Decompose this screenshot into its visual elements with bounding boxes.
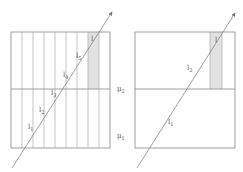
label-mu2: μ2 xyxy=(117,85,125,94)
left-columns xyxy=(22,32,99,148)
right-ray xyxy=(137,13,235,168)
left-label-l5: l5 xyxy=(76,52,81,61)
left-panel: l l5 l4 l3 l2 l1 xyxy=(11,12,112,168)
right-label-l2: l2 xyxy=(187,64,192,73)
diagram-canvas: l l5 l4 l3 l2 l1 μ2 μ1 l l2 l1 xyxy=(0,0,243,172)
left-label-l3: l3 xyxy=(51,89,56,98)
right-label-l1: l1 xyxy=(168,118,173,127)
right-panel: l l2 l1 xyxy=(135,13,235,168)
label-mu1: μ1 xyxy=(117,132,125,141)
left-label-l2: l2 xyxy=(39,106,44,115)
left-ray xyxy=(12,12,112,168)
left-label-l1: l1 xyxy=(28,123,33,132)
